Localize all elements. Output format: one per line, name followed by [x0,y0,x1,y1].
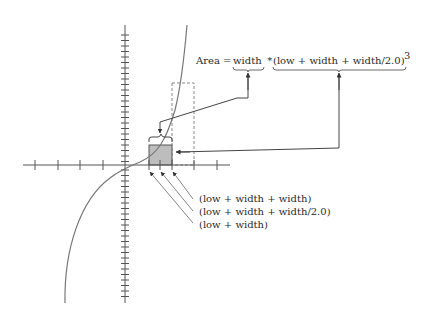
formula-width-term: width [233,55,262,66]
height-pointer-arrow [178,75,339,152]
dashed-interval-rect [172,83,194,165]
riemann-area-diagram: Area = width * (low + width + width/2.0)… [0,0,422,320]
annotation-upper-bound: (low + width + width) [199,193,311,204]
width-brace [149,134,172,142]
y-axis [121,25,129,303]
formula-exponent: 3 [404,50,410,61]
formula-height-term: (low + width + width/2.0) [273,55,405,66]
tick-leader-lines [150,172,193,223]
formula-prefix: Area = [195,55,235,66]
annotation-lower-bound: (low + width) [199,219,268,230]
annotation-midpoint: (low + width + width/2.0) [199,206,331,217]
width-pointer-arrow [160,75,248,133]
